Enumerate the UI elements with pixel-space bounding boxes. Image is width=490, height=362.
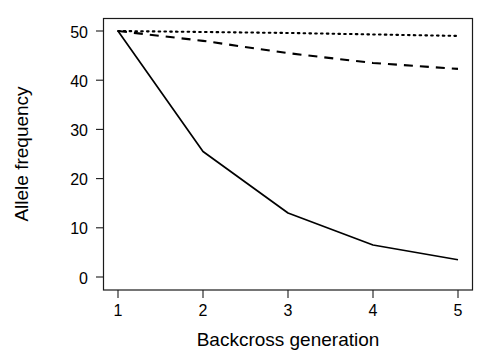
chart-figure: 50 40 30 20 10 0 1 2 3 4 5 (0, 0, 490, 362)
y-tick-label-0: 0 (79, 270, 88, 287)
y-axis-tick-labels: 50 40 30 20 10 0 (70, 24, 88, 287)
x-tick-label-3: 3 (284, 302, 293, 319)
x-tick-label-2: 2 (199, 302, 208, 319)
x-axis-tick-labels: 1 2 3 4 5 (114, 302, 463, 319)
y-tick-label-40: 40 (70, 73, 88, 90)
y-tick-label-20: 20 (70, 171, 88, 188)
y-tick-label-50: 50 (70, 24, 88, 41)
x-tick-label-1: 1 (114, 302, 123, 319)
x-tick-label-5: 5 (454, 302, 463, 319)
line-chart-svg: 50 40 30 20 10 0 1 2 3 4 5 (0, 0, 490, 362)
y-tick-label-10: 10 (70, 220, 88, 237)
y-tick-label-30: 30 (70, 122, 88, 139)
x-axis-title: Backcross generation (197, 329, 380, 350)
x-tick-label-4: 4 (369, 302, 378, 319)
y-axis-title: Allele frequency (11, 86, 32, 222)
series-dotted-line (118, 31, 458, 36)
data-series-group (118, 31, 458, 260)
y-axis-ticks (96, 31, 104, 277)
x-axis-ticks (118, 290, 458, 298)
series-dashed-line (118, 31, 458, 69)
plot-area-frame (104, 19, 473, 291)
